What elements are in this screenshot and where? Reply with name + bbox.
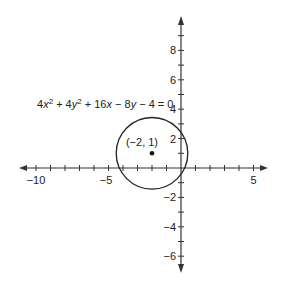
eq-op-1: + 4: [53, 98, 72, 110]
y-tick-label-neg2: −2: [163, 191, 176, 203]
center-point: [150, 151, 155, 156]
x-axis: −10 −5 5: [19, 165, 268, 186]
x-tick-label-5: 5: [250, 174, 256, 186]
eq-op-3: − 8: [112, 98, 131, 110]
y-axis: 8 6 4 2 −2 −4 −6: [163, 16, 184, 273]
coordinate-plane: −10 −5 5 8 6 4 2 −2 −4 −: [0, 0, 285, 286]
eq-op-4: − 4 = 0: [136, 98, 173, 110]
center-point-label: (−2, 1): [126, 136, 158, 148]
y-axis-up-arrow-icon: [178, 16, 184, 25]
y-tick-label-neg4: −4: [163, 221, 176, 233]
x-axis-left-arrow-icon: [19, 165, 27, 171]
x-tick-label-neg5: −5: [100, 174, 113, 186]
x-tick-label-neg10: −10: [27, 174, 46, 186]
y-tick-label-6: 6: [170, 74, 176, 86]
eq-op-2: + 16: [82, 98, 107, 110]
y-tick-label-neg6: −6: [163, 250, 176, 262]
y-axis-down-arrow-icon: [178, 264, 184, 273]
y-tick-label-8: 8: [170, 44, 176, 56]
y-tick-label-2: 2: [170, 133, 176, 145]
equation-label: 4x2 + 4y2 + 16x − 8y − 4 = 0: [37, 97, 173, 110]
x-axis-right-arrow-icon: [260, 165, 268, 171]
